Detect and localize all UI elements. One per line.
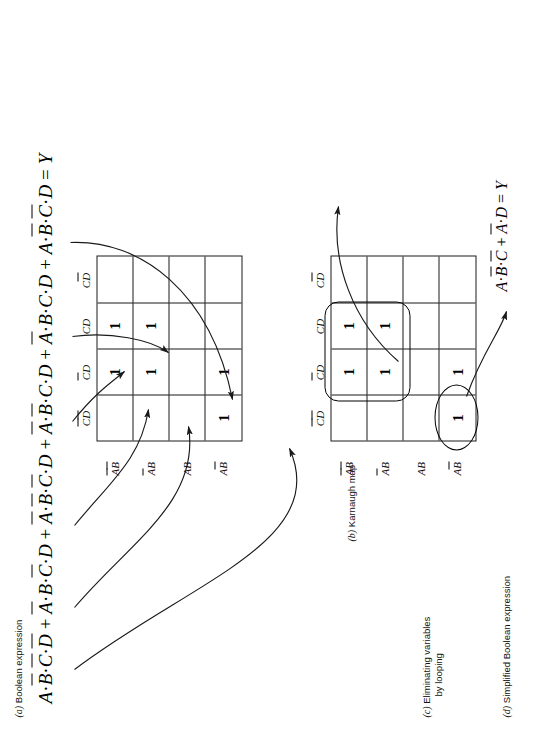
arrow-term-5 — [72, 334, 168, 352]
arrow-quad-to-simplified — [336, 206, 398, 361]
arrow-term-2 — [74, 426, 189, 607]
arrow-term-4 — [72, 371, 124, 421]
connector-arrows — [0, 0, 546, 731]
arrow-term-6 — [70, 242, 232, 399]
arrow-term-1 — [74, 448, 296, 669]
arrow-term-3 — [74, 409, 148, 525]
arrow-pair-to-simplified — [466, 311, 506, 396]
figure-canvas: (a) Boolean expression A·B·C·D + A·B·C·D… — [0, 0, 546, 731]
figure-rotated-layer: (a) Boolean expression A·B·C·D + A·B·C·D… — [0, 0, 546, 731]
